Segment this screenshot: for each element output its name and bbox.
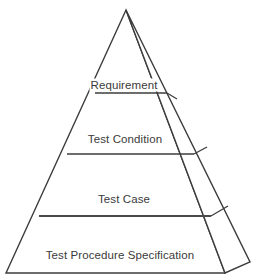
tier-divider-2-side: [194, 147, 207, 154]
pyramid-diagram: ··· Requirement Test Condition Test Case…: [0, 0, 257, 278]
pyramid-front-face: [6, 10, 225, 273]
pyramid-shape: [0, 0, 257, 278]
